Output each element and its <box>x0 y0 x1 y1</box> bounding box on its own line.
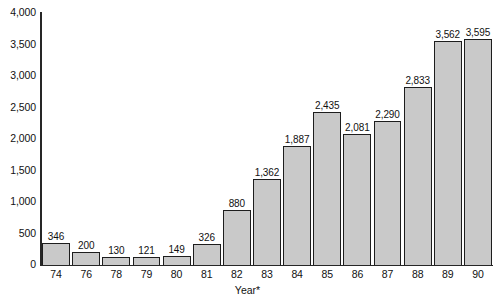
y-axis-tick-label: 4,000 <box>0 7 36 18</box>
bar-group[interactable]: 149 <box>163 13 191 265</box>
bar-rect[interactable] <box>434 41 462 265</box>
y-axis-tick-label: 1,000 <box>0 196 36 207</box>
bar-group[interactable]: 3,562 <box>434 13 462 265</box>
bar-value-label: 3,562 <box>436 29 461 40</box>
bar-group[interactable]: 121 <box>133 13 161 265</box>
y-axis-tick-label: 0 <box>0 259 36 270</box>
bar-group[interactable]: 1,362 <box>253 13 281 265</box>
bar-group[interactable]: 200 <box>72 13 100 265</box>
bar-rect[interactable] <box>313 112 341 265</box>
bar-value-label: 2,833 <box>405 75 430 86</box>
bar-value-label: 346 <box>48 231 64 242</box>
x-axis-tick-label: 89 <box>433 268 463 280</box>
x-axis-tick-label: 79 <box>131 268 161 280</box>
y-axis-tick-label: 3,500 <box>0 39 36 50</box>
x-axis-title: Year* <box>0 284 495 296</box>
bar-value-label: 3,595 <box>466 27 491 38</box>
bar-group[interactable]: 3,595 <box>464 13 492 265</box>
bar-value-label: 2,081 <box>345 122 370 133</box>
x-axis-tick-label: 86 <box>342 268 372 280</box>
bar-rect[interactable] <box>374 121 402 265</box>
x-axis-tick-label: 78 <box>101 268 131 280</box>
x-axis-tick-label: 80 <box>162 268 192 280</box>
bar-value-label: 1,887 <box>285 134 310 145</box>
y-axis-tick-label: 1,500 <box>0 165 36 176</box>
y-axis-tick-label: 2,000 <box>0 133 36 144</box>
bar-rect[interactable] <box>404 87 432 265</box>
bar-group[interactable]: 326 <box>193 13 221 265</box>
bar-rect[interactable] <box>133 257 161 265</box>
y-axis-tick-label: 500 <box>0 228 36 239</box>
x-axis-tick-label: 76 <box>71 268 101 280</box>
bar-group[interactable]: 130 <box>102 13 130 265</box>
bar-value-label: 1,362 <box>255 167 280 178</box>
bar-group[interactable]: 880 <box>223 13 251 265</box>
bar-group[interactable]: 2,833 <box>404 13 432 265</box>
bar-rect[interactable] <box>283 146 311 265</box>
x-axis-tick-label: 82 <box>222 268 252 280</box>
plot-area: 3462001301211493268801,3621,8872,4352,08… <box>41 13 493 265</box>
bar-value-label: 130 <box>108 245 124 256</box>
bar-value-label: 2,290 <box>375 109 400 120</box>
bar-group[interactable]: 346 <box>42 13 70 265</box>
bar-rect[interactable] <box>343 134 371 265</box>
bar-rect[interactable] <box>223 210 251 265</box>
bar-group[interactable]: 2,081 <box>343 13 371 265</box>
bar-value-label: 149 <box>168 244 184 255</box>
bar-group[interactable]: 2,290 <box>374 13 402 265</box>
bar-rect[interactable] <box>193 244 221 265</box>
x-axis-tick-label: 84 <box>282 268 312 280</box>
x-axis-tick-label: 88 <box>403 268 433 280</box>
bar-rect[interactable] <box>102 257 130 265</box>
bar-value-label: 880 <box>229 198 245 209</box>
x-axis-tick-label: 81 <box>192 268 222 280</box>
bar-value-label: 121 <box>138 245 154 256</box>
bar-value-label: 200 <box>78 240 94 251</box>
y-axis-tick-label: 3,000 <box>0 70 36 81</box>
bar-group[interactable]: 1,887 <box>283 13 311 265</box>
y-axis-labels: 05001,0001,5002,0002,5003,0003,5004,000 <box>0 0 36 301</box>
bar-rect[interactable] <box>253 179 281 265</box>
bar-rect[interactable] <box>163 256 191 265</box>
bar-rect[interactable] <box>72 252 100 265</box>
y-axis-tick-label: 2,500 <box>0 102 36 113</box>
x-axis-tick-label: 90 <box>463 268 493 280</box>
bar-chart: 05001,0001,5002,0002,5003,0003,5004,000 … <box>0 0 495 301</box>
x-axis-tick-label: 74 <box>41 268 71 280</box>
x-axis-tick-label: 83 <box>252 268 282 280</box>
x-axis-tick-label: 85 <box>312 268 342 280</box>
bar-value-label: 326 <box>199 232 215 243</box>
x-axis-tick-label: 87 <box>372 268 402 280</box>
bar-rect[interactable] <box>464 39 492 265</box>
bar-rect[interactable] <box>42 243 70 265</box>
bar-group[interactable]: 2,435 <box>313 13 341 265</box>
bar-value-label: 2,435 <box>315 100 340 111</box>
